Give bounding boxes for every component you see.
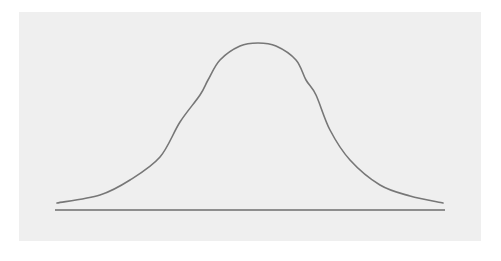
bell-curve-plot (0, 0, 501, 261)
normal-curve (57, 43, 443, 203)
chart-stage (0, 0, 501, 261)
